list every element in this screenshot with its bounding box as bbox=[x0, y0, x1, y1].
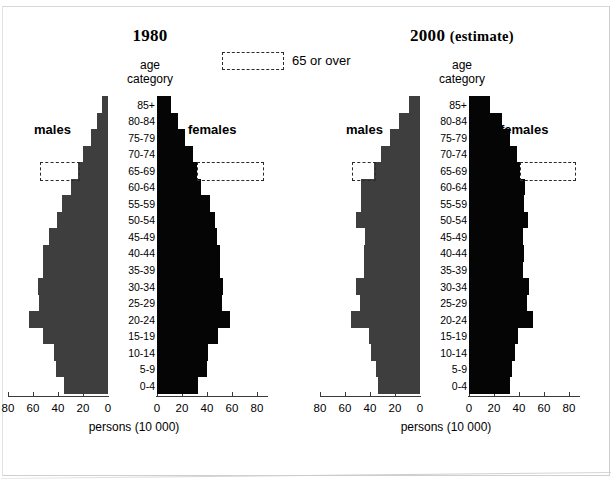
male-bar bbox=[374, 162, 420, 179]
panel-title-year: 2000 bbox=[410, 26, 445, 45]
male-bar bbox=[365, 228, 420, 245]
age-category-label: 0-4 bbox=[108, 381, 155, 391]
female-bar bbox=[157, 328, 218, 345]
female-bar bbox=[469, 377, 510, 394]
panel-title-subtitle: (estimate) bbox=[450, 28, 514, 44]
female-bar bbox=[157, 278, 223, 295]
highlight-box-females-65-plus bbox=[197, 162, 264, 181]
female-bar bbox=[157, 179, 201, 196]
age-category-label: 10-14 bbox=[108, 348, 155, 358]
axis-tick-label: 80 bbox=[0, 402, 20, 414]
age-category-label: 80-84 bbox=[108, 116, 155, 126]
male-bar bbox=[371, 344, 420, 361]
axis-tick-label: 40 bbox=[507, 402, 531, 414]
x-axis-title: persons (10 000) bbox=[312, 420, 580, 434]
chart-panel-1980: 1980 age category males females 85+80-84… bbox=[0, 18, 300, 458]
panel-title-1980: 1980 bbox=[0, 26, 300, 46]
female-bar bbox=[157, 245, 220, 262]
panel-title-year: 1980 bbox=[132, 26, 167, 45]
female-bar bbox=[157, 228, 217, 245]
male-bar bbox=[83, 146, 108, 163]
male-bar bbox=[378, 377, 421, 394]
axis-tick-label: 20 bbox=[482, 402, 506, 414]
female-bar bbox=[469, 245, 524, 262]
axis-tick-label: 20 bbox=[71, 402, 95, 414]
age-category-label: 20-24 bbox=[108, 315, 155, 325]
age-category-label: 45-49 bbox=[108, 232, 155, 242]
female-bar bbox=[157, 162, 197, 179]
age-category-header: age category bbox=[312, 58, 612, 86]
x-axis-1980: persons (10 000) 806040200020406080 bbox=[0, 396, 300, 436]
age-category-label: 5-9 bbox=[108, 364, 155, 374]
female-axis-line bbox=[156, 396, 268, 397]
age-category-axis-1980: 85+80-8475-7970-7465-6960-6455-5950-5445… bbox=[108, 96, 157, 396]
age-category-label: 50-54 bbox=[108, 215, 155, 225]
age-category-label: 40-44 bbox=[420, 248, 467, 258]
age-category-label: 70-74 bbox=[420, 149, 467, 159]
age-category-label: 75-79 bbox=[420, 133, 467, 143]
age-category-label: 20-24 bbox=[420, 315, 467, 325]
female-bar bbox=[157, 262, 220, 279]
male-bar bbox=[361, 179, 420, 196]
axis-tick-label: 0 bbox=[457, 402, 481, 414]
female-bar bbox=[157, 212, 215, 229]
age-category-label: 15-19 bbox=[420, 331, 467, 341]
female-bar bbox=[157, 344, 208, 361]
female-bar bbox=[469, 295, 527, 312]
male-bars-1980 bbox=[0, 96, 108, 396]
male-bar bbox=[97, 113, 108, 130]
male-bar bbox=[64, 377, 108, 394]
female-bar bbox=[469, 311, 533, 328]
female-bar bbox=[157, 311, 230, 328]
male-bar bbox=[356, 278, 420, 295]
male-bar bbox=[38, 278, 108, 295]
age-header-line1: age bbox=[312, 58, 612, 72]
axis-tick-label: 60 bbox=[220, 402, 244, 414]
age-category-label: 15-19 bbox=[108, 331, 155, 341]
female-bar bbox=[157, 361, 207, 378]
age-category-label: 60-64 bbox=[108, 182, 155, 192]
age-header-line2: category bbox=[312, 72, 612, 86]
axis-tick-label: 20 bbox=[383, 402, 407, 414]
male-bar bbox=[29, 311, 108, 328]
age-category-label: 55-59 bbox=[420, 199, 467, 209]
age-category-label: 25-29 bbox=[420, 298, 467, 308]
axis-tick-label: 20 bbox=[170, 402, 194, 414]
age-header-line2: category bbox=[0, 72, 300, 86]
female-bar bbox=[157, 129, 185, 146]
pyramid-plot-2000: males females 85+80-8475-7970-7465-6960-… bbox=[312, 96, 612, 403]
axis-tick-label: 60 bbox=[21, 402, 45, 414]
male-bar bbox=[43, 262, 108, 279]
age-category-label: 30-34 bbox=[420, 282, 467, 292]
male-bar bbox=[78, 162, 108, 179]
female-bar bbox=[469, 96, 490, 113]
male-bar bbox=[360, 295, 420, 312]
female-bar bbox=[469, 344, 515, 361]
male-bar bbox=[351, 311, 420, 328]
age-header-line1: age bbox=[0, 58, 300, 72]
age-category-axis-2000: 85+80-8475-7970-7465-6960-6455-5950-5445… bbox=[420, 96, 469, 396]
female-bar bbox=[469, 212, 528, 229]
age-category-label: 10-14 bbox=[420, 348, 467, 358]
axis-tick-label: 60 bbox=[532, 402, 556, 414]
male-bar bbox=[409, 96, 420, 113]
axis-tick-label: 60 bbox=[333, 402, 357, 414]
female-bars-2000 bbox=[469, 96, 612, 396]
male-bar bbox=[369, 328, 420, 345]
axis-tick-label: 80 bbox=[308, 402, 332, 414]
female-bar bbox=[469, 328, 518, 345]
age-category-label: 40-44 bbox=[108, 248, 155, 258]
age-category-header: age category bbox=[0, 58, 300, 86]
age-category-label: 25-29 bbox=[108, 298, 155, 308]
male-bar bbox=[399, 113, 420, 130]
male-bar bbox=[43, 245, 108, 262]
x-axis-2000: persons (10 000) 806040200020406080 bbox=[312, 396, 612, 436]
female-bar bbox=[157, 295, 222, 312]
age-category-label: 60-64 bbox=[420, 182, 467, 192]
age-category-label: 45-49 bbox=[420, 232, 467, 242]
male-bar bbox=[361, 195, 420, 212]
age-category-label: 85+ bbox=[108, 100, 155, 110]
male-bar bbox=[381, 146, 420, 163]
axis-tick-label: 0 bbox=[408, 402, 432, 414]
age-category-label: 55-59 bbox=[108, 199, 155, 209]
